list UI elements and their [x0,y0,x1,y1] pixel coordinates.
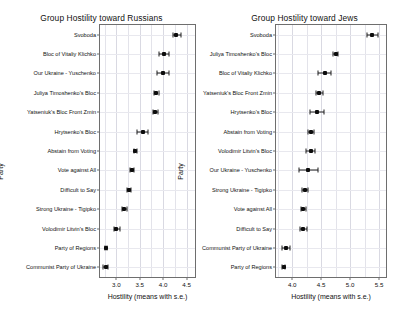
gridline-horizontal [276,54,386,55]
error-bar-cap [298,168,299,173]
y-axis-tick [273,73,276,74]
data-point-marker [309,149,313,153]
x-axis-tick [116,277,117,280]
data-point-marker [104,246,108,250]
error-bar-cap [306,226,307,231]
error-bar-cap [168,52,169,57]
data-point-marker [141,130,145,134]
y-axis-category-label: Our Ukraine - Yuschenko [34,70,96,76]
y-axis-tick [273,209,276,210]
x-axis-tick-label: 5.0 [346,281,355,288]
y-axis-tick [97,151,100,152]
data-point-marker [127,188,131,192]
y-axis-tick [273,189,276,190]
error-bar-cap [309,110,310,115]
y-axis-category-label: Hrytsenko's Bloc [231,109,272,115]
y-axis-tick [273,151,276,152]
gridline-horizontal [100,112,195,113]
x-axis-tick-label: 4.5 [317,281,326,288]
y-axis-category-label: Our Ukraine - Yuschenko [210,167,272,173]
x-axis-tick-label: 5.5 [375,281,384,288]
y-axis-category-label: Strong Ukraine - Tigipko [36,206,96,212]
y-axis-category-label: Vote against All [58,167,96,173]
error-bar-cap [119,226,120,231]
y-axis-category-label: Difficult to Say [236,226,272,232]
error-bar-cap [315,90,316,95]
y-axis-tick [273,131,276,132]
data-point-marker [122,207,126,211]
data-point-marker [301,227,305,231]
data-point-marker [306,168,310,172]
gridline-horizontal [276,209,386,210]
error-bar-cap [317,168,318,173]
data-point-marker [133,149,137,153]
gridline-horizontal [276,132,386,133]
x-axis-tick [292,277,293,280]
error-bar-cap [315,149,316,154]
x-axis-tick-label: 3.5 [135,281,144,288]
y-axis-category-label: Party of Regions [55,245,96,251]
data-point-marker [323,71,327,75]
dotplot-figure: Group Hostility toward Russians Party Sv… [0,0,406,318]
error-bar-cap [172,32,173,37]
error-bar-cap [378,32,379,37]
data-point-marker [303,188,307,192]
y-axis-category-label: Svoboda [74,32,96,38]
panel-title-jews: Group Hostility toward Jews [203,13,406,23]
x-axis-tick-label: 4.5 [182,281,191,288]
y-axis-category-label: Hrytsenko's Bloc [55,129,96,135]
plot-area-russians: SvobodaBloc of Vitaliy KlichkoOur Ukrain… [99,24,196,278]
gridline-horizontal [276,190,386,191]
error-bar-cap [324,110,325,115]
y-axis-category-label: Volodimir Litvin's Bloc [42,226,96,232]
y-axis-category-label: Communist Party of Ukraine [26,264,96,270]
y-axis-tick [273,267,276,268]
gridline-horizontal [276,229,386,230]
x-axis-title-russians: Hostility (means with s.e.) [99,293,196,300]
gridline-horizontal [276,93,386,94]
x-axis-title-jews: Hostility (means with s.e.) [275,293,387,300]
y-axis-tick [97,189,100,190]
y-axis-category-label: Volodimir Litvin's Bloc [218,148,272,154]
y-axis-tick [97,209,100,210]
x-axis-tick-label: 4.0 [288,281,297,288]
gridline-horizontal [100,190,195,191]
data-point-marker [315,110,319,114]
data-point-marker [154,91,158,95]
panel-russians: Group Hostility toward Russians Party Sv… [0,0,203,318]
error-bar-cap [331,71,332,76]
y-axis-tick [273,34,276,35]
error-bar-cap [148,129,149,134]
y-axis-tick [97,34,100,35]
error-bar-cap [157,71,158,76]
y-axis-tick [97,228,100,229]
panel-title-russians: Group Hostility toward Russians [0,13,203,23]
gridline-horizontal [276,248,386,249]
x-axis-tick-label: 4.0 [159,281,168,288]
error-bar-cap [169,71,170,76]
data-point-marker [104,265,108,269]
data-point-marker [162,52,166,56]
y-axis-category-label: Difficult to Say [60,187,96,193]
y-axis-category-label: Strong Ukraine - Tigipko [212,187,272,193]
x-axis-tick [163,277,164,280]
data-point-marker [282,265,286,269]
error-bar-cap [366,32,367,37]
data-point-marker [301,207,305,211]
data-point-marker [130,168,134,172]
data-point-marker [317,91,321,95]
y-axis-category-label: Bloc of Vitaliy Klichko [219,70,272,76]
y-axis-tick [273,247,276,248]
gridline-horizontal [100,73,195,74]
gridline-horizontal [276,267,386,268]
error-bar-cap [158,52,159,57]
gridline-horizontal [276,170,386,171]
gridline-horizontal [100,93,195,94]
gridline-horizontal [100,151,195,152]
error-bar-cap [281,245,282,250]
error-bar-cap [108,265,109,270]
x-axis-tick [379,277,380,280]
y-axis-category-label: Juliya Timoshenko's Bloc [210,51,272,57]
y-axis-category-label: Communist Party of Ukraine [202,245,272,251]
y-axis-tick [97,54,100,55]
